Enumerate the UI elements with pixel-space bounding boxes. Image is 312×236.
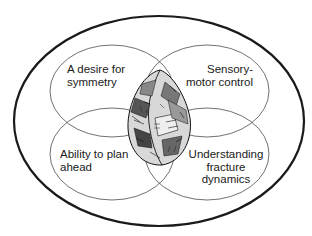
venn-diagram xyxy=(0,0,312,236)
label-line: fracture xyxy=(188,161,264,174)
label-ability-to-plan-ahead: Ability to plan ahead xyxy=(60,148,128,173)
label-line: Understanding xyxy=(188,148,264,161)
label-sensory-motor-control: Sensory- motor control xyxy=(180,63,253,88)
label-line: motor control xyxy=(180,76,253,89)
label-understanding-fracture-dynamics: Understanding fracture dynamics xyxy=(188,148,264,186)
label-line: A desire for xyxy=(67,63,125,76)
label-line: symmetry xyxy=(67,76,125,89)
label-line: Sensory- xyxy=(180,63,253,76)
label-line: ahead xyxy=(60,161,128,174)
label-desire-for-symmetry: A desire for symmetry xyxy=(67,63,125,88)
label-line: Ability to plan xyxy=(60,148,128,161)
label-line: dynamics xyxy=(188,173,264,186)
